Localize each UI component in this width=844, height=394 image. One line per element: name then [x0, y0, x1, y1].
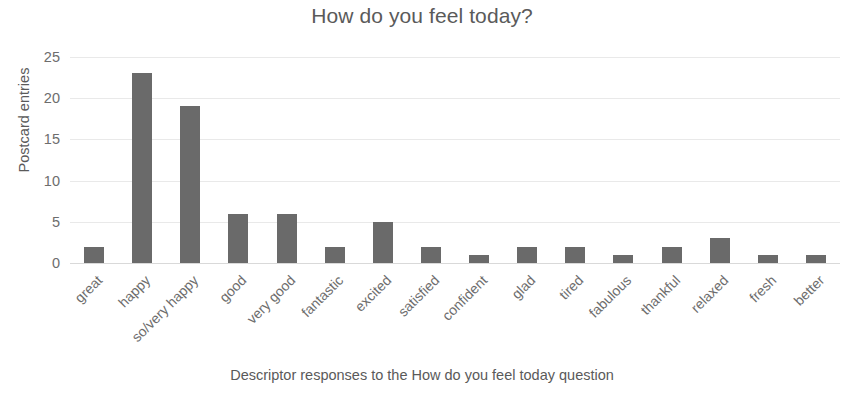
bar-chart: How do you feel today? Postcard entries … [0, 0, 844, 394]
bar-slot [70, 57, 118, 263]
bar[interactable] [277, 214, 297, 263]
x-axis-tick-label-text: great [71, 272, 105, 306]
x-axis-tick-label-text: excited [351, 272, 394, 315]
y-axis-tick-label: 0 [18, 263, 60, 264]
x-axis-tick-label-text: fresh [746, 272, 779, 305]
y-axis-tick-label: 10 [18, 181, 60, 182]
bar-series [70, 57, 840, 263]
y-axis-tick-label: 15 [18, 139, 60, 140]
y-axis-tick-label: 5 [18, 222, 60, 223]
bar[interactable] [565, 247, 585, 263]
bar[interactable] [180, 106, 200, 263]
bar-slot [744, 57, 792, 263]
bar-slot [792, 57, 840, 263]
bar-slot [118, 57, 166, 263]
y-axis-tick-label: 20 [18, 98, 60, 99]
x-axis-tick-label-text: good [216, 272, 249, 305]
x-axis-tick-labels: greathappyso/very happygoodvery goodfant… [70, 266, 840, 358]
x-axis-title: Descriptor responses to the How do you f… [0, 367, 844, 383]
x-tick-slot: better [792, 266, 840, 358]
x-axis-tick-label-text: tired [556, 272, 587, 303]
x-axis-tick-label-text: happy [115, 272, 153, 310]
x-tick-slot: so/very happy [166, 266, 214, 358]
bar-slot [166, 57, 214, 263]
bar-slot [407, 57, 455, 263]
bar[interactable] [806, 255, 826, 263]
bar-slot [359, 57, 407, 263]
bar-slot [455, 57, 503, 263]
x-tick-slot: glad [503, 266, 551, 358]
chart-title: How do you feel today? [0, 4, 844, 28]
bar-slot [503, 57, 551, 263]
bar-slot [648, 57, 696, 263]
plot-area: 0510152025 [70, 57, 840, 263]
x-tick-slot: fresh [744, 266, 792, 358]
bar[interactable] [613, 255, 633, 263]
bar[interactable] [132, 73, 152, 263]
y-axis-tick-label: 25 [18, 57, 60, 58]
x-axis-tick-label-text: glad [508, 272, 538, 302]
x-tick-slot: fabulous [599, 266, 647, 358]
bar[interactable] [84, 247, 104, 263]
x-tick-slot: relaxed [696, 266, 744, 358]
bar-slot [551, 57, 599, 263]
x-tick-slot: fantastic [311, 266, 359, 358]
x-tick-slot: confident [455, 266, 503, 358]
bar[interactable] [469, 255, 489, 263]
x-tick-slot: great [70, 266, 118, 358]
x-axis-tick-label-text: better [791, 272, 828, 309]
bar-slot [696, 57, 744, 263]
x-tick-slot: thankful [648, 266, 696, 358]
bar[interactable] [421, 247, 441, 263]
bar[interactable] [758, 255, 778, 263]
bar-slot [263, 57, 311, 263]
bar-slot [599, 57, 647, 263]
